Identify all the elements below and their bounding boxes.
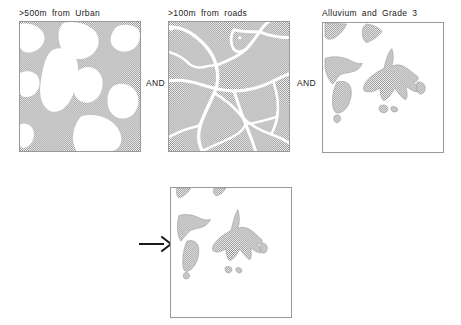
map-panel-soils: [322, 22, 444, 153]
soil-patch-bottom-dot-1: [379, 105, 388, 113]
result-arrow: [138, 236, 174, 252]
result-patch-bottom-dot-1: [225, 266, 232, 273]
panel-title-roads-buffer: >100m from roads: [168, 8, 247, 18]
overlay-result-map: [171, 188, 291, 317]
panel-title-urban-buffer: >500m from Urban: [19, 8, 100, 18]
soils-map: [323, 23, 443, 152]
map-panel-overlay-result: [170, 187, 292, 318]
operator-and-2: AND: [297, 78, 316, 88]
map-panel-urban-buffer: [19, 21, 141, 152]
soil-patch-left-dot: [334, 115, 341, 123]
hatched-suitable-area: [169, 22, 289, 151]
result-patch-left-dot: [183, 272, 189, 279]
urban-buffer-map: [20, 22, 140, 151]
operator-and-1: AND: [146, 78, 165, 88]
roads-buffer-map: [169, 22, 289, 151]
panel-title-soils: Alluvium and Grade 3: [322, 8, 417, 18]
right-arrow-icon: [138, 236, 174, 252]
map-panel-roads-buffer: [168, 21, 290, 152]
overlay-diagram: >500m from Urban AND >100m from roads: [0, 0, 461, 325]
